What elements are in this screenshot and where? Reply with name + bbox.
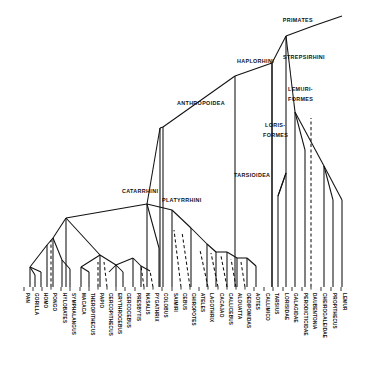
taxon-label: CEBUS	[182, 293, 187, 310]
branch-segment	[66, 218, 100, 255]
phylogenetic-tree-figure: PRIMATESSTREPSIRHINIHAPLORHINILEMURI-FOR…	[0, 0, 368, 368]
inferred-branch-segment	[182, 232, 190, 287]
branch-segment	[247, 258, 256, 266]
taxon-label: LAGOTHRIX	[209, 293, 214, 323]
branch-segment	[109, 265, 116, 272]
clade-label-lorisiformes_2: FORMES	[263, 132, 288, 138]
taxon-label: PONGO	[52, 293, 57, 312]
inferred-branch-segment	[150, 271, 153, 287]
branch-segment	[147, 204, 159, 248]
taxon-label: GALAGIDAE	[293, 293, 298, 323]
branch-segment	[191, 228, 207, 244]
inferred-branch-segment	[241, 262, 245, 287]
clade-label-lemuriformes_2: FORMES	[288, 96, 313, 102]
branch-segment	[278, 173, 286, 196]
taxon-label: PAPIO	[99, 293, 104, 308]
branch-segment	[295, 112, 305, 150]
branch-segment	[116, 265, 123, 272]
taxon-label: PAN	[25, 293, 30, 304]
taxon-label: COLOBUS	[163, 293, 168, 318]
taxon-label: SAIMIRI	[173, 293, 178, 312]
branch-segment	[172, 210, 191, 228]
taxon-label: LEMUR	[342, 293, 347, 311]
taxon-label-group: PANGORILLAHOMOPONGOHYLOBATESSYMPHALANGUS…	[25, 293, 347, 338]
taxon-label: CERCOPITHECUS	[108, 293, 113, 336]
clade-label-lemuriformes_1: LEMURI-	[288, 86, 313, 92]
taxon-label: ATELES	[200, 293, 205, 312]
branch-segment	[100, 255, 116, 265]
branch-segment	[47, 238, 53, 245]
taxon-label: MACACA	[81, 293, 86, 315]
branch-segment	[324, 166, 342, 200]
taxon-label: CERCOCEBUS	[126, 293, 131, 328]
taxon-stem-group	[24, 287, 341, 291]
taxon-label: CALLIMICO	[265, 293, 270, 321]
taxon-label: CHIROPOTES	[191, 293, 196, 326]
branch-segment	[66, 204, 147, 218]
taxon-label: SYMPHALANGUS	[71, 293, 76, 335]
branch-segment	[53, 218, 66, 238]
branch-segment	[295, 112, 324, 166]
branch-segment	[30, 245, 47, 267]
taxon-label: ERYTHROCEBUS	[117, 293, 122, 334]
inferred-branch-segment	[104, 262, 107, 287]
branch-segment	[313, 16, 342, 26]
taxon-label: DAUBENTONIA	[312, 293, 317, 330]
branch-segment	[324, 166, 333, 200]
branch-segment	[235, 63, 272, 76]
clade-label-primates: PRIMATES	[283, 17, 313, 23]
taxon-label: AOTES	[255, 293, 260, 310]
taxon-label: THEROPITHECUS	[90, 293, 95, 336]
taxon-label: NASALIS	[145, 293, 150, 315]
clade-label-lorisiformes_1: LORIS-	[265, 122, 285, 128]
branch-segment	[207, 244, 216, 252]
branch-segment	[81, 267, 89, 272]
branch-segment	[81, 255, 100, 267]
clade-label-platyrrhini: PLATYRRHINI	[162, 197, 202, 203]
inferred-branch-segment	[211, 253, 218, 287]
taxon-label: OEDIPOMIDAS	[246, 293, 251, 328]
branch-segment	[53, 238, 62, 260]
branch-segment	[286, 26, 313, 36]
branch-segment	[141, 266, 150, 271]
branch-segment	[116, 258, 133, 265]
taxon-label: GORILLA	[34, 293, 39, 316]
taxon-label: CACAJAO	[219, 293, 224, 318]
clade-label-haplorhini: HAPLORHINI	[237, 58, 274, 64]
taxon-label: CHEIROGALEIDAE	[322, 293, 327, 338]
branch-segment	[133, 258, 141, 266]
clade-label-strepsirhini: STREPSIRHINI	[283, 54, 325, 60]
taxon-label: PERODICTICIDAE	[303, 293, 308, 336]
taxon-label: ALOUATTA	[237, 293, 242, 320]
taxon-label: CALLICEBUS	[228, 293, 233, 325]
inferred-branch-segment	[174, 230, 181, 287]
clade-label-tarsioidea: TARSIOIDEA	[234, 172, 270, 178]
tree-canvas: PRIMATESSTREPSIRHINIHAPLORHINILEMURI-FOR…	[0, 0, 368, 368]
taxon-label: PRESBYTIS	[136, 293, 141, 321]
taxon-label: PROPITHECUS	[332, 293, 337, 329]
taxon-label: HOMO	[43, 293, 48, 308]
taxon-label: PYGATHRIX	[154, 293, 159, 322]
taxon-label: LORISIDAE	[284, 293, 289, 320]
taxon-label: HYLOBATES	[62, 293, 67, 323]
inferred-branch-segment	[221, 256, 227, 287]
taxon-label: TARSIUS	[274, 293, 279, 315]
clade-label-catarrhini: CATARRHINI	[122, 188, 158, 194]
clade-label-anthropoidea: ANTHROPOIDEA	[177, 100, 225, 106]
